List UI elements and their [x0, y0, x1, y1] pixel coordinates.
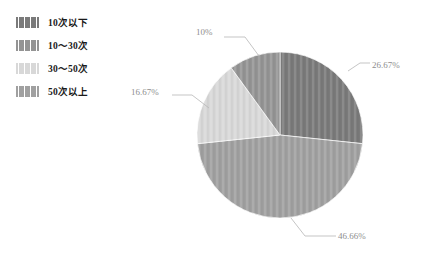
pie-slice-texture: [197, 52, 363, 218]
pie-slice-hatch-0: [280, 52, 363, 144]
leader-line-0: [348, 63, 370, 71]
pie-label-46-66: 46.66%: [338, 231, 366, 241]
pie-slice-hatch-1: [197, 135, 362, 218]
pie-chart-svg: [0, 0, 428, 266]
pie-chart-area: [0, 0, 428, 266]
pie-label-10: 10%: [196, 27, 213, 37]
leader-line-3: [224, 37, 259, 56]
leader-line-1: [291, 218, 336, 236]
pie-label-26-67: 26.67%: [372, 60, 400, 70]
pie-label-16-67: 16.67%: [131, 87, 159, 97]
pie-chart-page: 10次以下 10～30次 30～50次 50次以上: [0, 0, 428, 266]
